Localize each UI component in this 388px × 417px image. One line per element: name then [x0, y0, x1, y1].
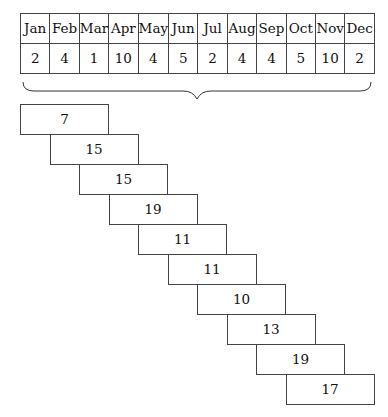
window-sum-box: 19 [109, 194, 198, 225]
window-sum-box: 10 [197, 284, 286, 315]
curly-brace-icon [0, 0, 388, 110]
window-sum-box: 11 [138, 224, 227, 255]
window-sum-box: 15 [79, 164, 168, 195]
window-sum-box: 17 [286, 374, 375, 405]
window-sum-box: 19 [256, 344, 345, 375]
window-sum-box: 15 [50, 134, 139, 165]
window-sum-box: 13 [227, 314, 316, 345]
window-sum-box: 7 [20, 104, 109, 135]
window-sum-box: 11 [168, 254, 257, 285]
